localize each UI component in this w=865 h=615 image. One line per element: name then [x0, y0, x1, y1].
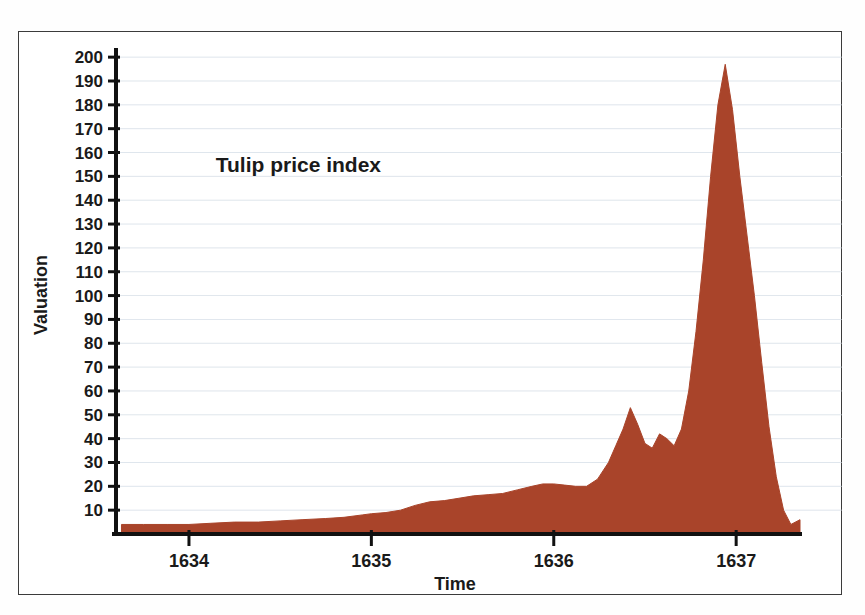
y-tick-label: 140: [75, 191, 103, 210]
y-tick-label: 30: [84, 453, 103, 472]
y-tick-label: 90: [84, 310, 103, 329]
y-tick-label: 180: [75, 96, 103, 115]
y-axis-title: Valuation: [31, 255, 51, 335]
y-tick-label: 150: [75, 167, 103, 186]
y-tick-label: 100: [75, 287, 103, 306]
x-tick-group: 1634163516361637: [169, 530, 756, 571]
y-tick-label: 200: [75, 48, 103, 67]
y-tick-label: 50: [84, 406, 103, 425]
y-tick-label: 60: [84, 382, 103, 401]
x-tick-label: 1636: [534, 551, 574, 571]
y-tick-label: 130: [75, 215, 103, 234]
area-series-group: [121, 64, 800, 534]
y-tick-label: 120: [75, 239, 103, 258]
tulip-price-index-chart: 1020304050607080901001101201301401501601…: [0, 0, 865, 615]
y-tick-label: 20: [84, 477, 103, 496]
y-tick-label: 190: [75, 72, 103, 91]
y-tick-label: 40: [84, 430, 103, 449]
x-tick-label: 1637: [716, 551, 756, 571]
figure-container: 1020304050607080901001101201301401501601…: [0, 0, 865, 615]
x-axis-title: Time: [434, 574, 476, 594]
x-tick-label: 1635: [351, 551, 391, 571]
y-tick-label: 160: [75, 144, 103, 163]
y-tick-label: 110: [76, 263, 103, 282]
y-tick-label: 170: [75, 120, 103, 139]
y-tick-label: 10: [84, 501, 103, 520]
x-tick-label: 1634: [169, 551, 209, 571]
y-tick-label: 70: [84, 358, 103, 377]
area-fill-path: [121, 64, 800, 534]
chart-title: Tulip price index: [216, 153, 382, 176]
y-tick-label: 80: [84, 334, 103, 353]
y-tick-group: 1020304050607080901001101201301401501601…: [75, 48, 120, 520]
